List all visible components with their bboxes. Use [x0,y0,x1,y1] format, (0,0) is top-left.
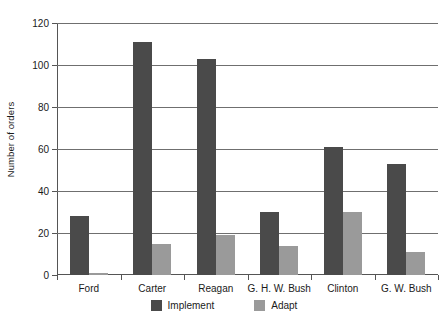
x-axis-tick [57,275,58,280]
plot-area: 020406080100120 FordCarterReaganG. H. W.… [57,23,438,275]
x-axis-tick [248,275,249,280]
bar-group: Clinton [311,23,375,275]
bar-adapt [406,252,425,275]
y-tick-label: 20 [38,228,49,239]
bar-adapt [89,273,108,275]
x-axis-tick [311,275,312,280]
x-axis-tick [121,275,122,280]
y-tick-label: 80 [38,102,49,113]
legend-item-adapt[interactable]: Adapt [254,300,297,311]
x-tick-label: G. H. W. Bush [248,283,311,294]
bar-adapt [152,244,171,276]
y-axis-title-text: Number of orders [6,101,17,177]
bar-adapt [216,235,235,275]
bar-implement [260,212,279,275]
x-tick-label: Carter [138,283,166,294]
x-tick-label: G. W. Bush [381,283,432,294]
x-tick-label: Reagan [198,283,233,294]
y-tick-label: 100 [32,60,49,71]
legend-item-implement[interactable]: Implement [151,300,215,311]
bar-chart: Number of orders 020406080100120 FordCar… [0,0,448,326]
bar-group: Reagan [184,23,248,275]
bar-adapt [279,246,298,275]
x-axis-tick [375,275,376,280]
bar-group: G. W. Bush [375,23,439,275]
y-tick-label: 60 [38,144,49,155]
bar-group: Carter [121,23,185,275]
x-tick-label: Clinton [327,283,358,294]
bar-implement [324,147,343,275]
y-tick-label: 0 [43,270,49,281]
legend: ImplementAdapt [0,300,448,311]
y-axis-title: Number of orders [2,0,20,278]
bar-adapt [343,212,362,275]
legend-label: Implement [168,300,215,311]
legend-label: Adapt [271,300,297,311]
bar-group: G. H. W. Bush [248,23,312,275]
y-tick-label: 120 [32,18,49,29]
x-axis-tick [438,275,439,280]
y-tick-label: 40 [38,186,49,197]
x-tick-label: Ford [78,283,99,294]
legend-swatch-icon [254,300,265,311]
bar-implement [197,59,216,275]
x-axis-tick [184,275,185,280]
legend-swatch-icon [151,300,162,311]
bar-implement [70,216,89,275]
bar-group: Ford [57,23,121,275]
bar-implement [387,164,406,275]
bar-implement [133,42,152,275]
